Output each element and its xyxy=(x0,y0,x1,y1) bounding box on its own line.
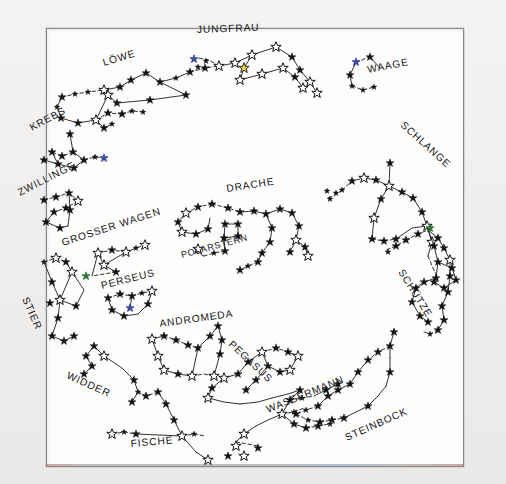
label-fische: FISCHE xyxy=(130,434,174,449)
constellation-loewe: LÖWE xyxy=(54,48,194,132)
constellation-drawing: LÖWE xyxy=(0,0,506,484)
label-jungfrau: JUNGFRAU xyxy=(197,22,260,35)
constellation-stier: STIER xyxy=(20,253,84,345)
constellation-fische: FISCHE xyxy=(107,388,249,465)
constellation-waage: WAAGE xyxy=(346,53,410,93)
constellation-steinbock: STEINBOCK xyxy=(292,328,409,443)
constellation-widder: WIDDER xyxy=(65,342,141,406)
label-polarstern: POLARSTERN xyxy=(180,233,249,260)
label-wassermann: WASSERMANN xyxy=(265,374,346,415)
constellation-perseus: PERSEUS xyxy=(100,267,157,320)
label-perseus: PERSEUS xyxy=(100,267,156,291)
label-waage: WAAGE xyxy=(366,56,409,75)
label-widder: WIDDER xyxy=(65,370,112,399)
star-chart-page: LÖWE xyxy=(0,0,506,484)
constellation-andromeda: ANDROMEDA xyxy=(147,308,234,381)
label-drache: DRACHE xyxy=(226,176,276,194)
label-pegasus: PEGASUS xyxy=(227,338,275,384)
constellation-zwillinge: ZWILLINGE xyxy=(16,159,83,231)
label-andromeda: ANDROMEDA xyxy=(159,308,234,329)
label-steinbock: STEINBOCK xyxy=(343,406,409,443)
label-grosser-wagen: GROSSER WAGEN xyxy=(60,205,162,247)
constellation-polarstern: POLARSTERN xyxy=(180,233,249,260)
label-schlange: SCHLANGE xyxy=(399,119,453,169)
label-schuetze: SCHÜTZE xyxy=(396,267,434,319)
label-loewe: LÖWE xyxy=(101,48,136,68)
label-stier: STIER xyxy=(20,295,44,331)
constellation-drache: DRACHE xyxy=(174,176,313,274)
constellation-jungfrau: JUNGFRAU xyxy=(190,22,322,98)
constellation-wassermann: WASSERMANN xyxy=(231,374,346,452)
